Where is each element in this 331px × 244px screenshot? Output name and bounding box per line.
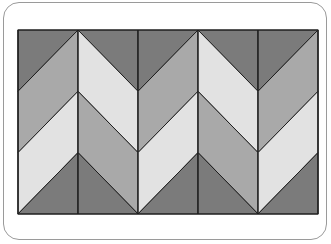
chevron-quilt-pattern bbox=[0, 0, 331, 244]
